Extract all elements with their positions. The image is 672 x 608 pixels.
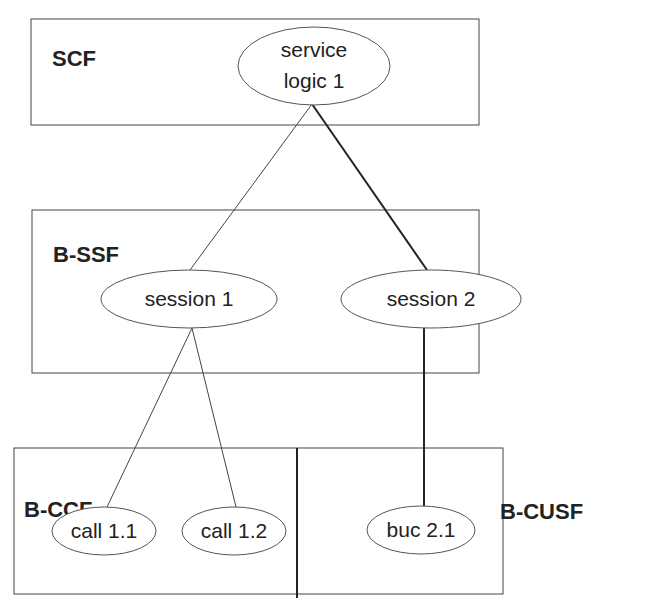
- session2-label: session 2: [387, 287, 476, 310]
- diagram-canvas: SCF B-SSF B-CCF B-CUSF service logic 1 s…: [0, 0, 672, 608]
- scf-label: SCF: [52, 46, 96, 71]
- node-session-1[interactable]: session 1: [101, 270, 277, 328]
- edge-session1-to-call12: [192, 328, 236, 507]
- node-call-1-2[interactable]: call 1.2: [182, 507, 286, 555]
- session1-label: session 1: [145, 287, 234, 310]
- call11-label: call 1.1: [71, 519, 138, 542]
- node-service-logic-1[interactable]: service logic 1: [238, 27, 390, 105]
- service-logic-line1: service: [281, 38, 348, 61]
- node-session-2[interactable]: session 2: [341, 270, 521, 328]
- node-call-1-1[interactable]: call 1.1: [52, 507, 156, 555]
- edge-session1-to-call11: [107, 328, 192, 507]
- bcusf-label: B-CUSF: [500, 499, 583, 524]
- edge-service-to-session1: [190, 104, 312, 270]
- service-logic-line2: logic 1: [284, 69, 345, 92]
- bssf-label: B-SSF: [53, 242, 119, 267]
- buc21-label: buc 2.1: [387, 518, 456, 541]
- node-buc-2-1[interactable]: buc 2.1: [367, 506, 475, 554]
- call12-label: call 1.2: [201, 519, 268, 542]
- edge-service-to-session2: [312, 104, 427, 270]
